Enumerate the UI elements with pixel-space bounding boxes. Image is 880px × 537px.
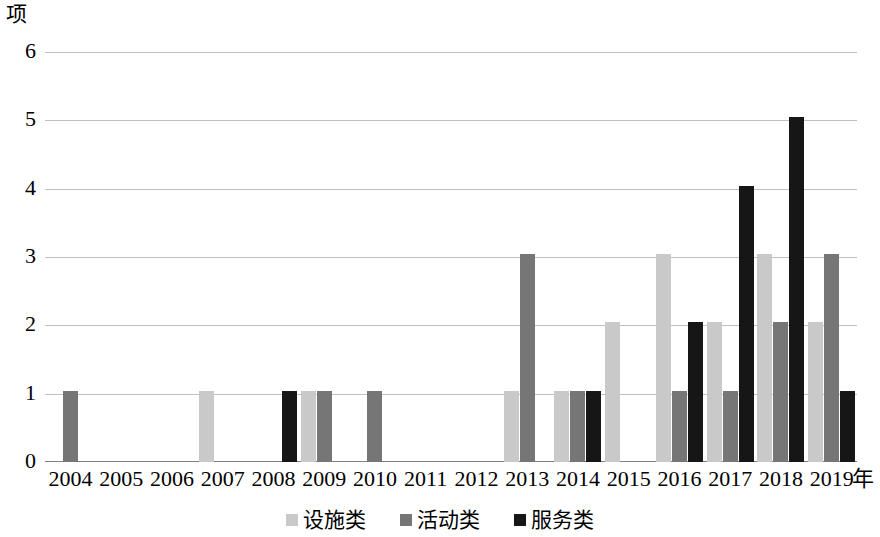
bar <box>757 254 772 462</box>
bar <box>789 117 804 462</box>
bar <box>672 391 687 462</box>
bar-group <box>654 52 705 462</box>
x-axis-tick-label: 2006 <box>147 464 198 494</box>
bar <box>317 391 332 462</box>
bar <box>840 391 855 462</box>
y-axis-tick-label: 3 <box>0 245 36 267</box>
bar-group <box>705 52 756 462</box>
bar-group <box>350 52 401 462</box>
bar <box>739 186 754 462</box>
y-axis-unit-label: 项 <box>6 2 27 26</box>
y-axis-tick-label: 1 <box>0 382 36 404</box>
x-axis-tick-label: 2019 <box>806 464 857 494</box>
bar-group <box>248 52 299 462</box>
bar <box>63 391 78 462</box>
x-axis-tick-label: 2007 <box>197 464 248 494</box>
x-axis-tick-label: 2016 <box>654 464 705 494</box>
bar <box>199 391 214 462</box>
bar <box>808 322 823 462</box>
x-axis-tick-label: 2010 <box>350 464 401 494</box>
bar <box>282 391 297 462</box>
bar-group <box>96 52 147 462</box>
bar-group <box>45 52 96 462</box>
legend-swatch-icon <box>400 514 412 526</box>
bar <box>586 391 601 462</box>
x-axis-tick-label: 2011 <box>400 464 451 494</box>
x-axis-tick-labels: 2004200520062007200820092010201120122013… <box>45 464 857 496</box>
bar-group <box>756 52 807 462</box>
x-axis-tick-label: 2013 <box>502 464 553 494</box>
x-axis-tick-label: 2017 <box>705 464 756 494</box>
bar <box>688 322 703 462</box>
bar-group <box>603 52 654 462</box>
x-axis-tick-label: 2005 <box>96 464 147 494</box>
x-axis-tick-label: 2015 <box>603 464 654 494</box>
bar <box>824 254 839 462</box>
y-axis-tick-label: 5 <box>0 108 36 130</box>
bar-chart: 项 0123456 200420052006200720082009201020… <box>0 0 880 537</box>
x-axis-unit-label: 年 <box>852 464 874 494</box>
bar-group <box>806 52 857 462</box>
bar <box>707 322 722 462</box>
plot-area <box>45 52 857 462</box>
bar-group <box>299 52 350 462</box>
legend-item[interactable]: 设施类 <box>286 508 366 532</box>
bar <box>504 391 519 462</box>
legend-swatch-icon <box>514 514 526 526</box>
bar <box>367 391 382 462</box>
legend-item[interactable]: 服务类 <box>514 508 594 532</box>
y-axis-tick-label: 4 <box>0 177 36 199</box>
legend-label: 设施类 <box>303 508 366 532</box>
bar-group <box>553 52 604 462</box>
x-axis-tick-label: 2018 <box>756 464 807 494</box>
x-axis-tick-label: 2008 <box>248 464 299 494</box>
x-axis-tick-label: 2009 <box>299 464 350 494</box>
bar-group <box>451 52 502 462</box>
legend-swatch-icon <box>286 514 298 526</box>
bar <box>723 391 738 462</box>
y-axis-tick-label: 6 <box>0 40 36 62</box>
bar-group <box>147 52 198 462</box>
y-axis-tick-label: 0 <box>0 450 36 472</box>
x-axis-tick-label: 2004 <box>45 464 96 494</box>
bar <box>570 391 585 462</box>
bar-group <box>400 52 451 462</box>
legend-label: 服务类 <box>531 508 594 532</box>
bar <box>520 254 535 462</box>
bar-group <box>502 52 553 462</box>
bar-group <box>197 52 248 462</box>
y-axis-tick-label: 2 <box>0 313 36 335</box>
bar <box>554 391 569 462</box>
x-axis-tick-label: 2014 <box>553 464 604 494</box>
chart-legend: 设施类活动类服务类 <box>0 503 880 537</box>
bar <box>605 322 620 462</box>
bar <box>301 391 316 462</box>
legend-label: 活动类 <box>417 508 480 532</box>
bar <box>773 322 788 462</box>
bar <box>656 254 671 462</box>
x-axis-tick-label: 2012 <box>451 464 502 494</box>
legend-item[interactable]: 活动类 <box>400 508 480 532</box>
